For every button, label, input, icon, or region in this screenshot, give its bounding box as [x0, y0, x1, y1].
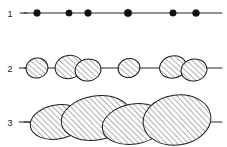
row-label-2: 2: [7, 64, 12, 74]
row-1-dot: [170, 10, 177, 17]
diagram-canvas: 1 2 3: [0, 0, 227, 147]
row-1-dot: [124, 9, 132, 17]
row-label-3: 3: [7, 118, 12, 128]
row-1-dot: [85, 10, 92, 17]
row-1-dot: [66, 10, 72, 16]
row-2-blob: [24, 56, 50, 81]
row-label-1: 1: [7, 9, 12, 19]
row-1-group: 1: [7, 9, 222, 19]
row-2-blob: [116, 56, 142, 80]
figure-root: 1 2 3: [0, 0, 227, 147]
row-1-dot: [34, 10, 41, 17]
row-2-group: 2: [7, 53, 222, 84]
row-1-dot: [193, 10, 200, 17]
row-3-group: 3: [7, 91, 222, 147]
